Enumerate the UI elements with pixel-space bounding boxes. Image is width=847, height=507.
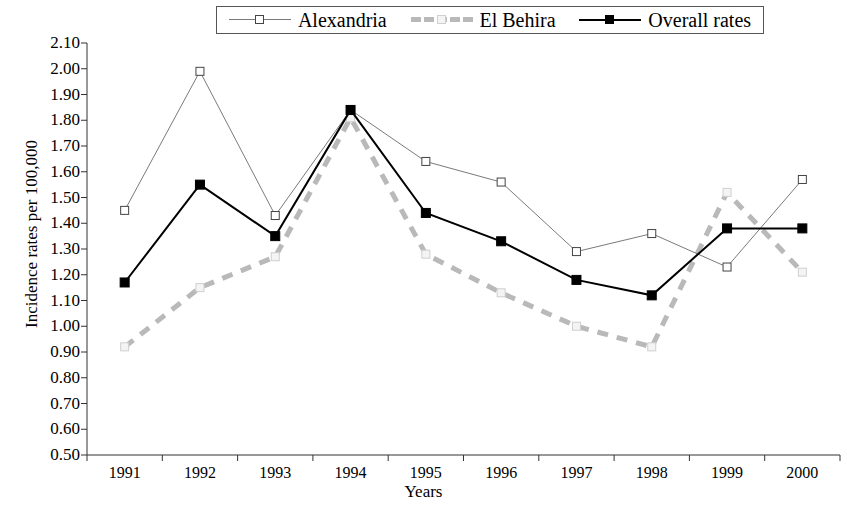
x-axis-title: Years — [0, 482, 847, 502]
data-point — [121, 206, 129, 214]
data-point — [121, 343, 129, 351]
data-point — [572, 322, 580, 330]
data-point — [271, 253, 279, 261]
data-point — [421, 208, 430, 217]
data-point — [798, 175, 806, 183]
series-el-behira — [121, 114, 807, 351]
data-point — [195, 180, 204, 189]
data-point — [497, 289, 505, 297]
data-point — [723, 263, 731, 271]
data-point — [798, 268, 806, 276]
data-point — [422, 250, 430, 258]
data-point — [572, 248, 580, 256]
data-point — [346, 105, 355, 114]
series-line — [125, 110, 803, 295]
data-point — [271, 232, 280, 241]
data-point — [271, 212, 279, 220]
data-point — [572, 275, 581, 284]
data-point — [798, 224, 807, 233]
data-point — [723, 224, 732, 233]
data-point — [648, 343, 656, 351]
data-point — [647, 291, 656, 300]
data-point — [196, 284, 204, 292]
data-point — [120, 278, 129, 287]
data-point — [497, 237, 506, 246]
line-chart: Alexandria El Behira Overall rates Incid… — [0, 0, 847, 507]
series-alexandria — [121, 67, 807, 271]
data-point — [196, 67, 204, 75]
plot-area — [0, 0, 847, 507]
series-line — [125, 71, 803, 267]
data-point — [422, 157, 430, 165]
data-point — [497, 178, 505, 186]
data-point — [648, 230, 656, 238]
series-line — [125, 118, 803, 347]
data-point — [723, 188, 731, 196]
series-overall-rates — [120, 105, 807, 299]
